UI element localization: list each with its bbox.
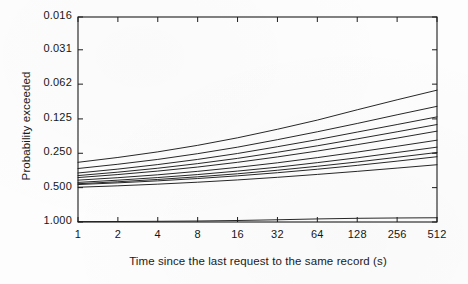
x-axis-tick-labels: 1 2 4 8 16 32 64 128 256 512 <box>0 0 468 284</box>
x-tick-label: 8 <box>194 228 200 240</box>
y-axis-title: Probability exceeded <box>20 46 32 206</box>
x-tick-label: 64 <box>311 228 324 240</box>
x-tick-label: 256 <box>388 228 407 240</box>
x-tick-label: 4 <box>155 228 161 240</box>
x-tick-label: 512 <box>428 228 447 240</box>
x-tick-label: 2 <box>115 228 121 240</box>
figure-canvas: 0.016 0.031 0.062 0.125 0.250 0.500 1.00… <box>0 0 468 284</box>
x-tick-label: 1 <box>75 228 81 240</box>
x-tick-label: 16 <box>231 228 244 240</box>
x-axis-title: Time since the last request to the same … <box>78 255 438 267</box>
x-tick-label: 128 <box>348 228 367 240</box>
x-tick-label: 32 <box>271 228 284 240</box>
